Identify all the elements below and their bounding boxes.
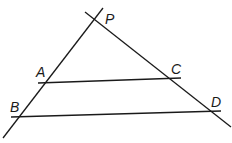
line-PB <box>3 8 103 138</box>
label-C: C <box>171 61 182 77</box>
line-PD <box>85 12 231 127</box>
line-AC <box>38 78 181 83</box>
label-P: P <box>105 11 115 27</box>
label-A: A <box>35 64 45 80</box>
label-B: B <box>10 99 19 115</box>
geometry-diagram: P A C B D <box>0 0 232 143</box>
label-D: D <box>211 94 221 110</box>
line-BD <box>11 111 221 117</box>
